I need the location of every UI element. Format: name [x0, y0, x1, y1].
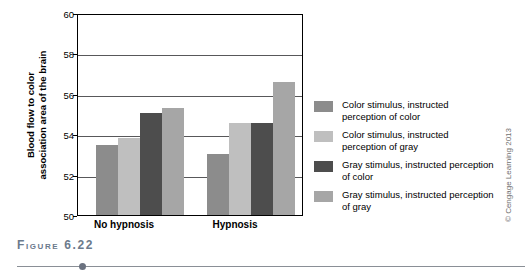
- copyright-credit: © Cengage Learning 2013: [498, 120, 518, 230]
- figure-container: Blood flow to color association area of …: [0, 0, 532, 274]
- legend-swatch-icon: [314, 131, 333, 142]
- bar: [207, 154, 229, 215]
- legend-swatch-icon: [314, 101, 333, 112]
- bars-layer: [78, 15, 302, 215]
- legend-item-label: Gray stimulus, instructed perception of …: [342, 159, 494, 182]
- y-tick-label-58: 58: [50, 49, 74, 60]
- y-axis-title: Blood flow to color association area of …: [22, 14, 52, 216]
- y-tick-label-54: 54: [50, 130, 74, 141]
- legend-item-label: Gray stimulus, instructed perception of …: [342, 189, 494, 212]
- figure-caption: Figure 6.22: [17, 238, 94, 252]
- bar: [118, 138, 140, 215]
- y-axis-title-line-2: association area of the brain: [37, 51, 49, 180]
- bar: [96, 145, 118, 215]
- chart-legend: Color stimulus, instructed perception of…: [314, 99, 494, 219]
- y-tick-label-52: 52: [50, 170, 74, 181]
- legend-item: Gray stimulus, instructed perception of …: [314, 189, 494, 212]
- legend-item: Color stimulus, instructed perception of…: [314, 129, 494, 152]
- x-tick-label-hypnosis: Hypnosis: [212, 219, 257, 230]
- legend-item-label: Color stimulus, instructed perception of…: [342, 99, 494, 122]
- copyright-credit-text: © Cengage Learning 2013: [504, 128, 513, 222]
- y-tick-label-60: 60: [50, 9, 74, 20]
- legend-item: Gray stimulus, instructed perception of …: [314, 159, 494, 182]
- y-tick-label-50: 50: [50, 211, 74, 222]
- caption-rule: [17, 263, 525, 271]
- legend-item: Color stimulus, instructed perception of…: [314, 99, 494, 122]
- bar: [229, 123, 251, 215]
- bar: [273, 82, 295, 215]
- bar: [162, 108, 184, 215]
- y-tick-label-56: 56: [50, 89, 74, 100]
- caption-rule-line: [17, 266, 525, 267]
- x-tick-label-no-hypnosis: No hypnosis: [94, 219, 154, 230]
- legend-swatch-icon: [314, 161, 333, 172]
- y-axis-title-line-1: Blood flow to color: [25, 51, 37, 180]
- plot-area: [77, 14, 303, 216]
- caption-rule-dot-icon: [79, 263, 86, 270]
- bar: [140, 113, 162, 215]
- legend-item-label: Color stimulus, instructed perception of…: [342, 129, 494, 152]
- legend-swatch-icon: [314, 191, 333, 202]
- bar: [251, 123, 273, 215]
